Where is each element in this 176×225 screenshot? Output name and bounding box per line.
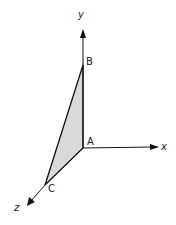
z-axis [31, 185, 45, 201]
point-a-label: A [87, 137, 94, 147]
x-axis [83, 147, 152, 148]
point-b-label: B [86, 57, 93, 67]
x-arrow-icon [150, 144, 159, 150]
x-axis-label: x [161, 142, 167, 152]
triangle-abc [45, 65, 83, 185]
y-arrow-icon [80, 29, 86, 38]
point-c-label: C [48, 184, 55, 194]
diagram-canvas [0, 0, 176, 225]
y-axis-label: y [78, 10, 84, 20]
z-axis-label: z [14, 203, 19, 213]
